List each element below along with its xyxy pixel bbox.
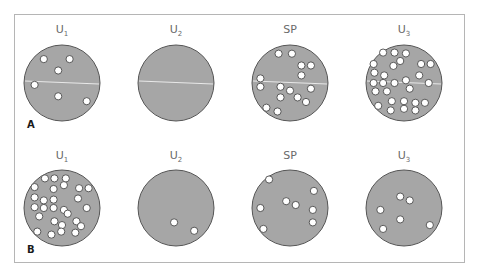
dish-label: SP [283,149,297,162]
cell-dot [277,94,284,101]
cell-dot [288,50,295,57]
cell-dot [294,94,301,101]
cell-dot [40,204,47,211]
cell-dot [36,213,43,220]
cell-dot [48,231,55,238]
cell-dot [370,79,377,86]
cell-dot [370,60,377,67]
cell-dot [64,210,71,217]
cell-dot [50,204,57,211]
dish-label: SP [283,23,297,36]
dish-label-subscript: 2 [178,156,182,164]
cell-dot [286,87,293,94]
cell-dot [77,223,84,230]
cell-dot [40,197,47,204]
dish-circle [138,170,214,246]
cell-dot [418,60,425,67]
cell-dot [58,222,65,229]
cell-dot [397,216,404,223]
cell-dot [425,79,432,86]
cell-dot [412,99,419,106]
cell-dot [421,99,428,106]
cell-dot [275,50,282,57]
cell-dot [406,85,413,92]
cell-dot [309,219,316,226]
cell-dot [50,196,57,203]
cell-dot [191,227,198,234]
cell-dot [302,98,309,105]
cell-dot [372,88,379,95]
cell-dot [371,69,378,76]
cell-dot [51,218,58,225]
cell-dot [260,225,267,232]
cell-dot [377,206,384,213]
cell-dot [375,102,382,109]
cell-dot [62,175,69,182]
cell-dot [31,194,38,201]
cell-dot [309,206,316,213]
dish-label-subscript: 3 [406,30,410,38]
cell-dot [292,201,299,208]
cell-dot [257,75,264,82]
cell-dot [50,185,57,192]
panel-label-a: A [27,119,35,130]
cell-dot [60,182,67,189]
cell-dot [85,185,92,192]
dish-label-subscript: 3 [406,156,410,164]
cell-dot [387,107,394,114]
cell-dot [412,107,419,114]
cell-dot [40,56,47,63]
cell-dot [426,222,433,229]
cell-dot [31,81,38,88]
cell-dot [277,83,284,90]
cell-dot [298,72,305,79]
cell-dot [34,228,41,235]
cell-dot [76,185,83,192]
cell-dot [400,105,407,112]
cell-dot [390,62,397,69]
cell-dot [307,85,314,92]
cell-dot [55,93,62,100]
dish-label-subscript: 1 [64,30,68,38]
cell-dot [257,204,264,211]
cell-dot [266,176,273,183]
cell-dot [257,83,264,90]
cell-dot [391,49,398,56]
cell-dot [283,198,290,205]
cell-dot [307,62,314,69]
cell-dot [66,56,73,63]
cell-dot [402,77,409,84]
cell-dot [274,108,281,115]
cell-dot [406,197,413,204]
cell-dot [298,62,305,69]
cell-dot [72,229,79,236]
cell-dot [74,195,81,202]
cell-dot [51,175,58,182]
cell-dot [58,228,65,235]
cell-dot [83,204,90,211]
cell-dot [402,50,409,57]
cell-dot [31,184,38,191]
cell-dot [391,79,398,86]
cell-dot [383,88,390,95]
cell-dot [310,187,317,194]
cell-dot [171,219,178,226]
cell-dot [380,49,387,56]
panel-label-b: B [27,244,35,255]
cell-dot [416,72,423,79]
cell-dot [400,98,407,105]
cell-dot [397,193,404,200]
cell-dot [380,225,387,232]
cell-dot [427,60,434,67]
cell-dot [31,204,38,211]
dish-label-subscript: 2 [178,30,182,38]
cell-dot [263,104,270,111]
cell-dot [388,98,395,105]
cell-dot [41,175,48,182]
dish-label-subscript: 1 [64,156,68,164]
cell-dot [83,98,90,105]
cell-dot [55,67,62,74]
cell-dot [397,57,404,64]
petri-dish-figure: U3SPU2U1 A U3SPU2U1 B [0,0,478,273]
cell-dot [380,79,387,86]
